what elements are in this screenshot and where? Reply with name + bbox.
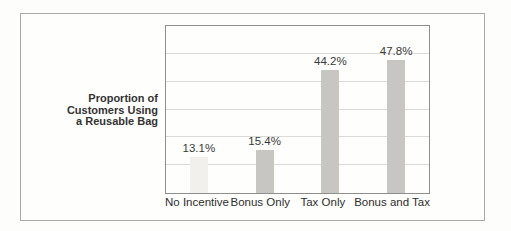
y-axis-title: Proportion of Customers Using a Reusable… <box>35 93 158 128</box>
y-axis-title-line-3: a Reusable Bag <box>35 116 158 128</box>
bar-no-incentive <box>190 157 208 193</box>
value-label-bonus-only: 15.4% <box>248 135 281 147</box>
figure-frame: Proportion of Customers Using a Reusable… <box>20 13 485 221</box>
x-axis-label-bonus-and-tax: Bonus and Tax <box>354 196 430 211</box>
plot-area: 13.1%15.4%44.2%47.8% <box>165 25 430 194</box>
x-axis-labels: No IncentiveBonus OnlyTax OnlyBonus and … <box>165 196 430 211</box>
x-axis-label-bonus-only: Bonus Only <box>229 196 292 211</box>
value-label-bonus-and-tax: 47.8% <box>380 45 413 57</box>
bar-bonus-and-tax <box>387 60 405 193</box>
bar-tax-only <box>321 70 339 193</box>
value-label-tax-only: 44.2% <box>314 55 347 67</box>
value-label-no-incentive: 13.1% <box>183 142 216 154</box>
y-axis-title-line-1: Proportion of <box>35 93 158 105</box>
bar-bonus-only <box>256 150 274 193</box>
x-axis-label-no-incentive: No Incentive <box>165 196 229 211</box>
x-axis-label-tax-only: Tax Only <box>292 196 355 211</box>
